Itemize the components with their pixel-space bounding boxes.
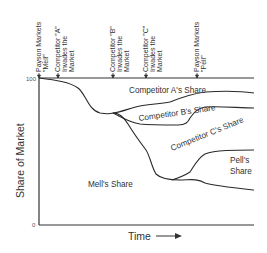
event-label-competitor-c: Competitor "C" Invades the Market: [142, 25, 163, 72]
svg-text:"Pell": "Pell": [200, 55, 207, 72]
svg-text:Invades the: Invades the: [149, 36, 156, 72]
pell-share-label-l2: Share: [230, 167, 252, 176]
event-label-competitor-b: Competitor "B" Invades the Market: [109, 26, 130, 72]
competitor-b-share-label: Competitor B's Share: [138, 103, 216, 123]
svg-text:"Mell": "Mell": [42, 54, 49, 72]
time-arrow-icon: [156, 233, 182, 239]
svg-text:Invades the: Invades the: [116, 36, 123, 72]
competitor-c-share-label: Competitor C's Share: [169, 115, 245, 153]
y-axis-label: Share of Market: [14, 123, 26, 198]
svg-text:Market: Market: [123, 51, 130, 72]
svg-text:Market: Market: [156, 51, 163, 72]
market-share-chart: Payson Markets "Mell" Competitor "A" Inv…: [0, 0, 267, 253]
event-label-pell: Payson Markets "Pell": [193, 21, 207, 72]
event-markers: [38, 73, 199, 78]
pell-share-label-l1: Pell's: [230, 156, 249, 165]
svg-text:Market: Market: [68, 51, 75, 72]
event-label-mell: Payson Markets "Mell": [35, 21, 49, 72]
competitor-a-share-label: Competitor A's Share: [129, 86, 207, 95]
event-label-competitor-a: Competitor "A" Invades the Market: [54, 26, 75, 72]
svg-text:Invades the: Invades the: [61, 36, 68, 72]
y-tick-100: 100: [26, 76, 37, 82]
y-tick-0: 0: [32, 222, 36, 228]
mell-share-label: Mell's Share: [88, 180, 133, 189]
x-axis-label: Time: [128, 230, 151, 242]
